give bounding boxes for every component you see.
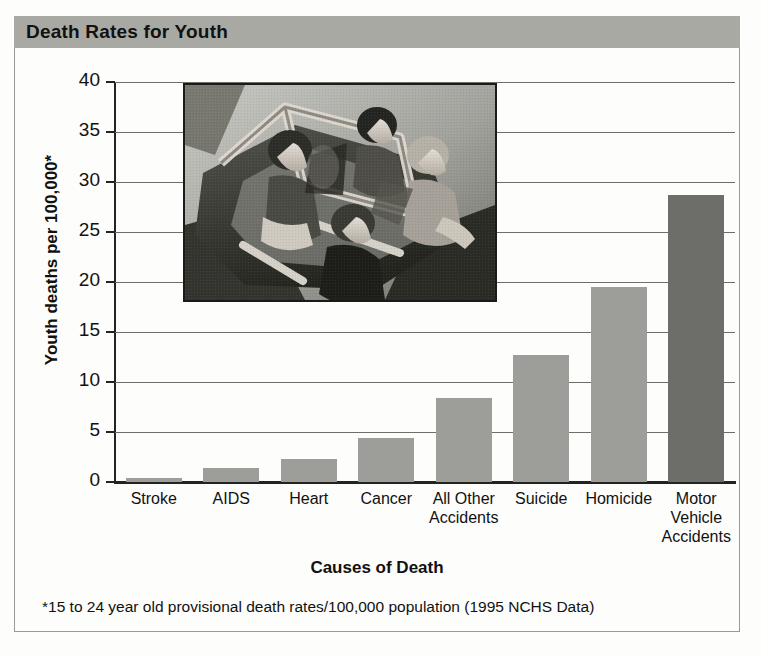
x-tick-label-all-other-accidents: All OtherAccidents xyxy=(425,489,503,527)
bar-suicide xyxy=(513,355,569,482)
y-tick-label-20: 20 xyxy=(40,269,100,291)
y-tick-mark-0 xyxy=(106,481,115,483)
y-tick-mark-15 xyxy=(106,331,115,333)
x-tick-label-homicide: Homicide xyxy=(580,489,658,508)
y-tick-mark-5 xyxy=(106,431,115,433)
x-tick-label-line: Stroke xyxy=(115,489,193,508)
y-tick-label-15: 15 xyxy=(40,319,100,341)
x-tick-label-stroke: Stroke xyxy=(115,489,193,508)
x-tick-label-line: Cancer xyxy=(348,489,426,508)
x-tick-label-cancer: Cancer xyxy=(348,489,426,508)
x-tick-label-line: AIDS xyxy=(193,489,271,508)
y-tick-label-25: 25 xyxy=(40,219,100,241)
y-tick-label-5: 5 xyxy=(40,419,100,441)
x-tick-label-motor-vehicle-accidents: MotorVehicleAccidents xyxy=(658,489,736,546)
bar-all-other-accidents xyxy=(436,398,492,482)
x-tick-label-heart: Heart xyxy=(270,489,348,508)
page-title: Death Rates for Youth xyxy=(26,21,228,43)
x-tick-label-line: Accidents xyxy=(658,527,736,546)
x-tick-label-aids: AIDS xyxy=(193,489,271,508)
x-tick-label-line: Heart xyxy=(270,489,348,508)
x-tick-label-line: Vehicle xyxy=(658,508,736,527)
x-tick-label-line: Motor xyxy=(658,489,736,508)
y-tick-mark-30 xyxy=(106,181,115,183)
x-tick-label-suicide: Suicide xyxy=(503,489,581,508)
y-tick-mark-40 xyxy=(106,81,115,83)
photo-artwork xyxy=(185,85,495,300)
y-tick-label-0: 0 xyxy=(40,469,100,491)
x-tick-label-line: All Other xyxy=(425,489,503,508)
y-tick-mark-35 xyxy=(106,131,115,133)
figure-root: Death Rates for Youth Youth deaths per 1… xyxy=(0,0,761,657)
x-tick-label-line: Accidents xyxy=(425,508,503,527)
x-axis-title: Causes of Death xyxy=(14,558,740,578)
y-tick-mark-20 xyxy=(106,281,115,283)
x-tick-label-line: Homicide xyxy=(580,489,658,508)
bar-aids xyxy=(203,468,259,482)
footnote: *15 to 24 year old provisional death rat… xyxy=(42,598,594,616)
y-tick-label-30: 30 xyxy=(40,169,100,191)
x-tick-label-line: Suicide xyxy=(503,489,581,508)
y-tick-label-35: 35 xyxy=(40,119,100,141)
y-tick-mark-10 xyxy=(106,381,115,383)
bar-heart xyxy=(281,459,337,482)
bar-stroke xyxy=(126,478,182,482)
bar-cancer xyxy=(358,438,414,482)
teens-in-convertible-photo xyxy=(183,83,497,302)
y-tick-label-40: 40 xyxy=(40,69,100,91)
y-tick-label-10: 10 xyxy=(40,369,100,391)
y-tick-mark-25 xyxy=(106,231,115,233)
bar-homicide xyxy=(591,287,647,482)
bar-motor-vehicle-accidents xyxy=(668,195,724,482)
